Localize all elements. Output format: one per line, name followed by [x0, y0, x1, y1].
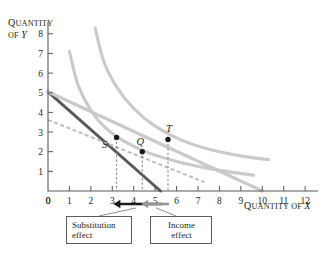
point-label-t: T	[166, 123, 173, 134]
plot-budget-lines	[48, 92, 262, 191]
x-tick-label: 2	[88, 196, 93, 206]
y-tick-label: 4	[38, 108, 43, 118]
income-effect-leader	[156, 208, 176, 216]
y-tick-label: 2	[38, 147, 43, 157]
x-tick-label: 7	[196, 196, 201, 206]
data-point-q	[140, 149, 145, 154]
point-label-s: S	[102, 139, 108, 150]
income-effect-line2: effect	[156, 230, 207, 240]
point-label-q: Q	[136, 136, 144, 147]
x-tick-label: 3	[110, 196, 115, 206]
new-budget-line	[48, 92, 262, 191]
income-effect-arrow-head	[141, 200, 148, 208]
origin-label: 0	[46, 196, 51, 206]
y-axis-title: QUANTITY	[8, 17, 53, 28]
data-point-s	[114, 135, 119, 140]
y-tick-label: 6	[38, 69, 43, 79]
effect-arrows	[113, 200, 169, 208]
data-point-t	[165, 137, 170, 142]
y-tick-label: 7	[38, 49, 43, 59]
x-tick-label: 8	[217, 196, 222, 206]
substitution-effect-line2: effect	[72, 230, 127, 240]
y-axis-title-line2: OF Y	[8, 29, 28, 40]
income-effect-callout: Income effect	[150, 216, 212, 244]
chart-container: 0123456789101112123456780 SQT QUANTITY O…	[0, 0, 324, 255]
x-tick-label: 6	[174, 196, 179, 206]
substitution-effect-leader	[99, 208, 136, 216]
y-tick-label: 1	[38, 167, 43, 177]
plot-curves	[69, 28, 268, 175]
x-axis-title: QUANTITY OF X	[244, 200, 311, 211]
callout-leader-lines	[99, 208, 176, 216]
income-effect-line1: Income	[156, 220, 207, 230]
y-tick-label: 8	[38, 29, 43, 39]
substitution-effect-line1: Substitution	[72, 220, 127, 230]
y-tick-label: 5	[38, 88, 43, 98]
x-tick-label: 1	[67, 196, 72, 206]
x-tick-label: 9	[238, 196, 243, 206]
y-tick-label: 3	[38, 128, 43, 138]
substitution-effect-callout: Substitution effect	[66, 216, 132, 244]
